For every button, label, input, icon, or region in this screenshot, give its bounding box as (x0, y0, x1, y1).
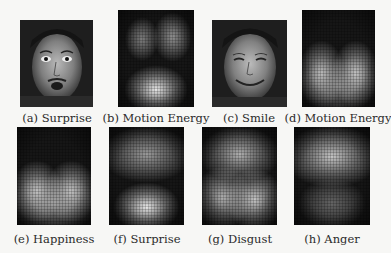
surprise-face-image (20, 20, 93, 107)
heatmap-disgust (202, 127, 277, 225)
vignette-overlay (202, 127, 277, 225)
heatmap-anger (294, 127, 370, 225)
caption-g: (g) Disgust (208, 232, 272, 246)
heatmap-happiness (17, 127, 91, 225)
smile-face-image (212, 20, 287, 107)
caption-e: (e) Happiness (14, 232, 95, 246)
caption-c: (c) Smile (223, 111, 275, 125)
motion-energy-heatmap-smile (302, 10, 375, 107)
caption-h: (h) Anger (304, 232, 359, 246)
caption-a: (a) Surprise (22, 111, 92, 125)
caption-b: (b) Motion Energy (103, 111, 210, 125)
caption-d: (d) Motion Energy (285, 111, 391, 125)
caption-f: (f) Surprise (114, 232, 181, 246)
vignette-overlay (294, 127, 370, 225)
vignette-overlay (118, 10, 194, 107)
vignette-overlay (302, 10, 375, 107)
vignette-overlay (17, 127, 91, 225)
heatmap-surprise (109, 127, 184, 225)
motion-energy-heatmap-surprise (118, 10, 194, 107)
vignette-overlay (109, 127, 184, 225)
